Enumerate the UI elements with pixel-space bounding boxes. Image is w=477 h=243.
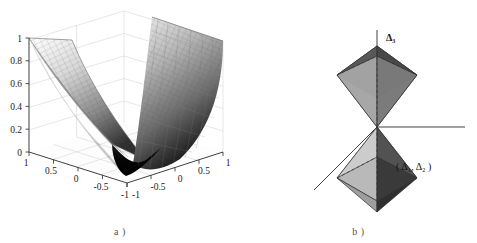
panel-b-caption: b ) bbox=[240, 226, 477, 237]
y-tick-label: -0.5 bbox=[150, 182, 165, 192]
delta3-axis-label: Δ₃ bbox=[386, 32, 395, 43]
delta12-axis-label: ( Δ₁, Δ₂ ) bbox=[396, 161, 431, 173]
z-tick-label: 0.6 bbox=[10, 79, 22, 89]
figure-container: 1 0.8 0.6 0.4 0.2 0 1 0.5 0 -0.5 -1 -1 -… bbox=[0, 0, 477, 243]
panel-a-caption: a ) bbox=[0, 226, 240, 237]
x-tick-label: 1 bbox=[24, 158, 29, 168]
delta12-label-text: ( Δ₁, Δ₂ ) bbox=[396, 161, 431, 173]
y-tick-label: 0.5 bbox=[198, 166, 210, 176]
z-tick-label: 0.2 bbox=[10, 125, 22, 135]
z-tick-label: 0.8 bbox=[10, 56, 22, 66]
delta3-label-text: Δ₃ bbox=[386, 32, 395, 43]
surface-plot-svg: 1 0.8 0.6 0.4 0.2 0 1 0.5 0 -0.5 -1 -1 -… bbox=[0, 0, 240, 243]
z-tick-label: 0.4 bbox=[10, 102, 22, 112]
y-tick-label: 0 bbox=[178, 174, 183, 184]
z-tick-label: 0 bbox=[17, 148, 22, 158]
x-tick-label: -0.5 bbox=[93, 182, 108, 192]
x-tick-label: 0.5 bbox=[45, 166, 57, 176]
y-tick-label: -1 bbox=[132, 190, 140, 200]
polyhedron-svg: Δ₃ ( Δ₁, Δ₂ ) bbox=[240, 0, 477, 243]
panel-b-polyhedron-diagram: Δ₃ ( Δ₁, Δ₂ ) b ) bbox=[240, 0, 477, 243]
x-tick-label: 0 bbox=[74, 174, 79, 184]
z-tick-label: 1 bbox=[17, 34, 22, 44]
panel-a-surface-plot: 1 0.8 0.6 0.4 0.2 0 1 0.5 0 -0.5 -1 -1 -… bbox=[0, 0, 240, 243]
z-axis-tick-labels: 1 0.8 0.6 0.4 0.2 0 bbox=[10, 34, 22, 158]
x-tick-label: -1 bbox=[121, 190, 129, 200]
y-tick-label: 1 bbox=[226, 158, 231, 168]
